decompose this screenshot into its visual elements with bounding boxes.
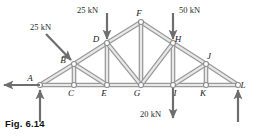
truss-member-highlight [74,43,107,64]
joint-label-l: L [239,80,245,90]
figure-caption: Fig. 6.14 [5,118,45,129]
truss-member-highlight [141,43,173,85]
figure-container: ABCDEFGHIJKL 25 kN25 kN50 kN20 kN Fig. 6… [0,0,256,138]
truss-member-highlight [107,22,141,43]
joint-label-d: D [92,34,100,44]
joint-label-c: C [68,88,75,98]
truss-joint-g [139,83,144,88]
truss-joint-f [139,20,144,25]
truss-joint-c [72,83,77,88]
load-label-b: 25 kN [30,22,51,32]
load-label-i: 20 kN [140,109,161,119]
truss-member-highlight [206,64,238,85]
joint-label-a: A [26,73,33,83]
truss-joint-d [105,41,110,46]
truss-joint-k [204,83,209,88]
truss-member-highlight [141,22,173,43]
joint-label-b: B [60,55,66,65]
truss-joint-b [72,62,77,67]
joint-label-g: G [134,88,141,98]
joint-label-e: E [100,88,107,98]
load-label-d: 25 kN [77,5,98,15]
joint-label-j: J [207,51,212,61]
joint-label-k: K [199,88,207,98]
truss-joint-j [204,62,209,67]
truss-member-highlight [107,43,141,85]
joint-label-h: H [174,34,182,44]
truss-member-highlight [40,64,74,85]
load-arrow-b [46,34,71,60]
truss-member-highlight [74,64,107,85]
joint-label-f: F [135,8,142,18]
truss-joint-i [171,83,176,88]
truss-member-highlight [173,64,206,85]
truss-member-highlight [173,43,206,64]
load-label-h: 50 kN [179,5,200,15]
truss-joint-e [105,83,110,88]
